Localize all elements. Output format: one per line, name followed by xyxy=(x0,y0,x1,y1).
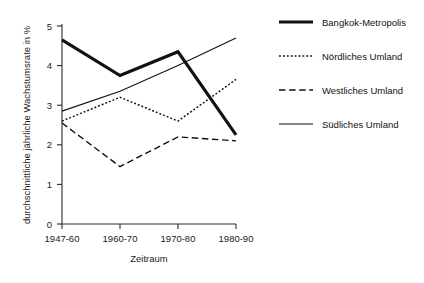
y-tick-label-1: 1 xyxy=(47,179,52,190)
legend-item-bangkok-metropolis: Bangkok-Metropolis xyxy=(279,17,406,28)
series-group xyxy=(62,38,236,167)
x-axis-tick-labels: 1947-60 1960-70 1970-80 1980-90 xyxy=(45,233,254,244)
y-axis-title: durchschnittliche jährliche Wachstumsrat… xyxy=(21,25,32,224)
legend-label-westliches-umland: Westliches Umland xyxy=(322,85,403,96)
line-chart: durchschnittliche jährliche Wachstumsrat… xyxy=(0,0,424,283)
y-tick-label-0: 0 xyxy=(47,219,52,230)
legend-item-noerdliches-umland: Nördliches Umland xyxy=(279,51,402,62)
x-tick-label-2: 1970-80 xyxy=(161,233,196,244)
y-tick-label-5: 5 xyxy=(47,21,52,32)
legend-item-suedliches-umland: Südliches Umland xyxy=(279,119,399,130)
chart-page: durchschnittliche jährliche Wachstumsrat… xyxy=(0,0,424,283)
y-tick-label-2: 2 xyxy=(47,139,52,150)
legend-item-westliches-umland: Westliches Umland xyxy=(279,85,403,96)
x-axis-title: Zeitraum xyxy=(130,253,168,264)
series-line-bangkok-metropolis xyxy=(62,40,236,135)
x-axis-ticks xyxy=(62,224,236,229)
x-tick-label-1: 1960-70 xyxy=(103,233,138,244)
legend-label-bangkok-metropolis: Bangkok-Metropolis xyxy=(322,17,406,28)
series-line-westliches-umland xyxy=(62,123,236,167)
legend-label-noerdliches-umland: Nördliches Umland xyxy=(322,51,402,62)
y-axis-ticks xyxy=(57,26,62,224)
y-tick-label-3: 3 xyxy=(47,100,52,111)
legend: Bangkok-Metropolis Nördliches Umland Wes… xyxy=(279,17,406,130)
series-line-noerdliches-umland xyxy=(62,79,236,121)
x-tick-label-0: 1947-60 xyxy=(45,233,80,244)
legend-label-suedliches-umland: Südliches Umland xyxy=(322,119,399,130)
y-tick-label-4: 4 xyxy=(47,60,52,71)
x-tick-label-3: 1980-90 xyxy=(219,233,254,244)
y-axis-tick-labels: 5 4 3 2 1 0 xyxy=(47,21,52,230)
